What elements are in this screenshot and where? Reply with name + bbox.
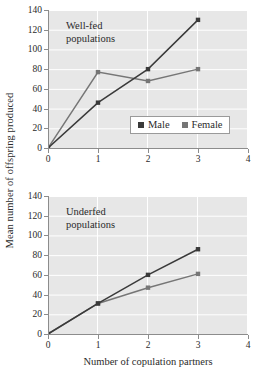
y-tick-mark — [44, 49, 48, 50]
data-point-male — [96, 100, 100, 104]
x-tick-label: 3 — [196, 154, 201, 164]
y-tick-label: 120 — [28, 211, 42, 221]
x-tick-label: 4 — [246, 154, 251, 164]
data-point-male — [146, 67, 150, 71]
y-tick-mark — [44, 89, 48, 90]
y-tick-mark — [44, 10, 48, 11]
series-line-female — [48, 274, 198, 334]
y-tick-mark — [44, 128, 48, 129]
y-tick-label: 100 — [28, 44, 42, 54]
male-legend-swatch — [138, 122, 144, 128]
x-tick-label: 3 — [196, 340, 201, 350]
x-tick-mark — [248, 149, 249, 153]
y-tick-mark — [44, 109, 48, 110]
y-tick-mark — [44, 30, 48, 31]
data-point-female — [96, 70, 100, 74]
y-tick-label: 140 — [28, 5, 42, 15]
y-tick-label: 80 — [33, 64, 43, 74]
x-tick-mark — [48, 149, 49, 153]
x-tick-mark — [198, 335, 199, 339]
x-tick-mark — [248, 335, 249, 339]
panel-caption-underfed: Underfed populations — [66, 205, 115, 231]
y-tick-label: 40 — [33, 290, 43, 300]
data-point-female — [196, 67, 200, 71]
x-tick-label: 2 — [146, 154, 151, 164]
y-tick-mark — [44, 314, 48, 315]
legend: Male Female — [130, 116, 230, 134]
x-tick-label: 2 — [146, 340, 151, 350]
y-tick-mark — [44, 69, 48, 70]
x-tick-label: 4 — [246, 340, 251, 350]
x-tick-mark — [148, 335, 149, 339]
y-tick-label: 100 — [28, 230, 42, 240]
data-point-female — [146, 285, 150, 289]
y-tick-label: 0 — [37, 143, 42, 153]
panel-caption-well-fed: Well-fed populations — [66, 19, 115, 45]
x-tick-label: 0 — [46, 154, 51, 164]
y-tick-label: 60 — [33, 84, 43, 94]
data-point-male — [196, 247, 200, 251]
y-tick-label: 140 — [28, 191, 42, 201]
y-axis-title: Mean number of offspring produced — [0, 0, 20, 340]
figure-container: Mean number of offspring produced Well-f… — [0, 0, 266, 378]
y-axis-title-text: Mean number of offspring produced — [5, 92, 16, 248]
x-tick-mark — [48, 335, 49, 339]
y-tick-label: 40 — [33, 104, 43, 114]
y-tick-mark — [44, 196, 48, 197]
y-tick-label: 20 — [33, 123, 43, 133]
y-tick-label: 80 — [33, 250, 43, 260]
chart-panel-underfed: Underfed populations 0204060801001201400… — [48, 196, 248, 348]
female-legend-swatch — [182, 122, 188, 128]
y-tick-label: 0 — [37, 329, 42, 339]
x-tick-label: 1 — [96, 154, 101, 164]
y-tick-mark — [44, 275, 48, 276]
y-tick-mark — [44, 216, 48, 217]
data-point-male — [196, 18, 200, 22]
data-point-male — [146, 273, 150, 277]
x-tick-mark — [198, 149, 199, 153]
x-tick-mark — [148, 149, 149, 153]
data-point-male — [96, 301, 100, 305]
y-axis-line-top — [48, 10, 49, 148]
chart-panel-well-fed: Well-fed populations 0204060801001201400… — [48, 10, 248, 162]
y-tick-label: 20 — [33, 309, 43, 319]
y-tick-label: 120 — [28, 25, 42, 35]
x-axis-title: Number of copulation partners — [48, 356, 248, 367]
x-tick-mark — [98, 149, 99, 153]
y-tick-mark — [44, 255, 48, 256]
legend-entry-female: Female — [182, 119, 223, 130]
legend-label-female: Female — [192, 119, 223, 130]
x-tick-mark — [98, 335, 99, 339]
data-point-female — [146, 79, 150, 83]
legend-entry-male: Male — [138, 119, 170, 130]
legend-label-male: Male — [148, 119, 170, 130]
y-tick-mark — [44, 235, 48, 236]
x-tick-label: 0 — [46, 340, 51, 350]
y-tick-label: 60 — [33, 270, 43, 280]
series-line-male — [48, 249, 198, 334]
y-tick-mark — [44, 295, 48, 296]
y-axis-line-bottom — [48, 196, 49, 334]
data-point-female — [196, 272, 200, 276]
x-tick-label: 1 — [96, 340, 101, 350]
